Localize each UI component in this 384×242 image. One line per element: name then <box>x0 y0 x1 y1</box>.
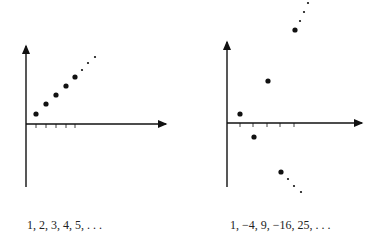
left-points <box>33 56 96 117</box>
right-chart <box>227 2 362 193</box>
diagram-canvas <box>0 0 384 242</box>
right-caption: 1, −4, 9, −16, 25, . . . <box>230 218 331 233</box>
left-caption: 1, 2, 3, 4, 5, . . . <box>27 218 102 233</box>
right-points <box>237 2 309 193</box>
left-chart <box>26 46 166 187</box>
